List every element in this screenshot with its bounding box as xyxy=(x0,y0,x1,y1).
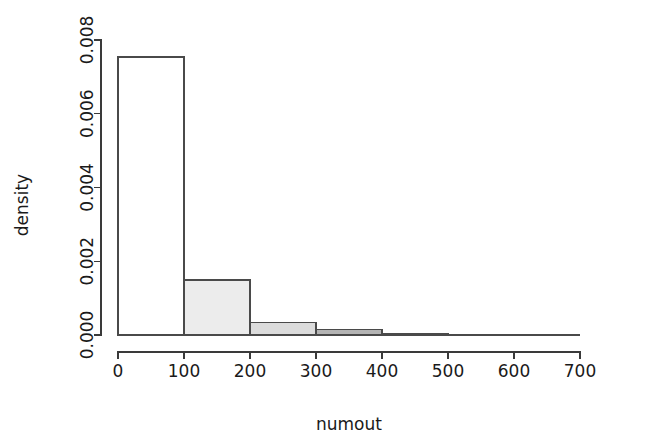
x-axis-tick-label: 400 xyxy=(366,361,398,381)
histogram-bar xyxy=(382,333,448,335)
x-axis-tick-label: 600 xyxy=(498,361,530,381)
histogram-bar xyxy=(316,330,382,335)
histogram-bar xyxy=(184,280,250,335)
histogram-plot-area: 0100200300400500600700 0.0000.0020.0040.… xyxy=(0,0,652,443)
y-axis-tick-label: 0.002 xyxy=(77,237,97,286)
y-axis-tick-label: 0.004 xyxy=(77,163,97,212)
histogram-bar xyxy=(250,323,316,335)
x-axis-title: numout xyxy=(316,414,382,434)
x-axis-tick-label: 500 xyxy=(432,361,464,381)
histogram-figure: 0100200300400500600700 0.0000.0020.0040.… xyxy=(0,0,652,443)
histogram-bar xyxy=(118,57,184,335)
y-axis-tick-label: 0.000 xyxy=(77,311,97,360)
y-axis-title: density xyxy=(12,174,32,236)
x-axis-tick-label: 700 xyxy=(564,361,596,381)
y-axis-tick-label: 0.006 xyxy=(77,89,97,138)
x-axis-tick-label: 300 xyxy=(300,361,332,381)
x-axis-tick-label: 200 xyxy=(234,361,266,381)
histogram-bar xyxy=(448,334,514,335)
x-axis-tick-label: 0 xyxy=(113,361,124,381)
x-axis-tick-label: 100 xyxy=(168,361,200,381)
y-axis-tick-label: 0.008 xyxy=(77,16,97,65)
